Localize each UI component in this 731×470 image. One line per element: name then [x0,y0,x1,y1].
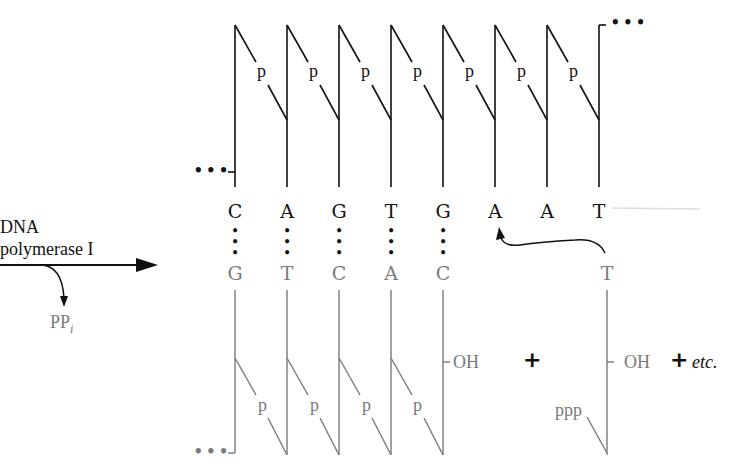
template-phosphate: p [361,62,370,80]
enzyme-label-line2: polymerase I [0,240,93,258]
template-base: G [329,202,349,221]
template-phosphate: p [413,62,422,80]
template-phosphate: p [309,62,318,80]
scan-artifact-line [612,208,700,209]
plus-sign: + [523,349,541,371]
new-strand-phosphate: p [362,396,371,414]
template-strand-backbone [228,25,606,187]
reaction-arrow [0,258,158,272]
pyrophosphate-label: PPi [50,313,73,335]
template-phosphate: p [465,62,474,80]
template-base: A [537,202,557,221]
plus-sign: + [670,349,688,371]
incoming-3prime-oh: OH [624,353,650,371]
template-base: G [433,202,453,221]
template-right-ellipsis: ••• [610,14,648,32]
template-phosphate: p [569,62,578,80]
template-base: C [225,202,245,221]
incoming-base: T [597,264,617,283]
template-phosphate: p [257,62,266,80]
new-strand-base: C [433,264,453,283]
template-base: T [381,202,401,221]
new-strand-base: T [277,264,297,283]
template-phosphate: p [517,62,526,80]
ppi-release-arrow [40,265,68,307]
new-strand-left-ellipsis: ••• [193,443,231,461]
base-pairing-arrow [496,227,605,253]
new-strand-3prime-oh: OH [453,353,479,371]
new-strand-base: C [329,264,349,283]
new-strand-base: G [225,264,245,283]
new-strand-phosphate: p [258,396,267,414]
incoming-nucleotide-backbone [587,290,614,455]
template-base: A [485,202,505,221]
new-strand-backbone [228,290,450,455]
template-left-ellipsis: ••• [193,162,231,180]
triphosphate-label: ppp [555,401,582,419]
template-base: A [277,202,297,221]
enzyme-label-line1: DNA [0,218,39,236]
new-strand-phosphate: p [310,396,319,414]
etc-label: etc. [692,353,717,371]
new-strand-base: A [381,264,401,283]
new-strand-phosphate: p [413,396,422,414]
template-base: T [589,202,609,221]
